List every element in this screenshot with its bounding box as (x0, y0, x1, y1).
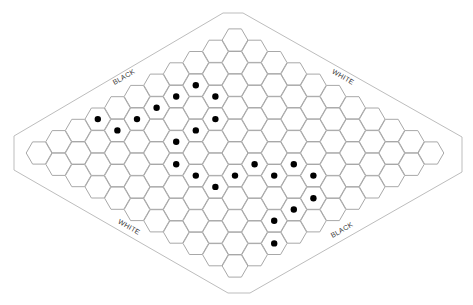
stone-black (193, 172, 199, 178)
stone-black (251, 161, 257, 167)
edge-label-top-right: WHITE (331, 68, 355, 86)
stone-black (173, 139, 179, 145)
stone-black (271, 172, 277, 178)
hex-board: BLACK WHITE WHITE BLACK (0, 0, 473, 305)
stone-black (310, 172, 316, 178)
stone-black (193, 82, 199, 88)
stone-black (114, 127, 120, 133)
stone-black (310, 195, 316, 201)
edge-label-top-left: BLACK (111, 68, 136, 86)
stone-black (173, 161, 179, 167)
stone-black (291, 206, 297, 212)
stone-black (271, 240, 277, 246)
board-cells (26, 29, 444, 277)
stone-black (134, 116, 140, 122)
stone-black (212, 184, 218, 190)
stone-black (95, 116, 101, 122)
stone-black (291, 161, 297, 167)
stone-black (271, 218, 277, 224)
stone-black (173, 93, 179, 99)
stone-black (232, 172, 238, 178)
stone-black (193, 127, 199, 133)
stone-black (153, 105, 159, 111)
stone-black (212, 93, 218, 99)
stone-black (212, 116, 218, 122)
